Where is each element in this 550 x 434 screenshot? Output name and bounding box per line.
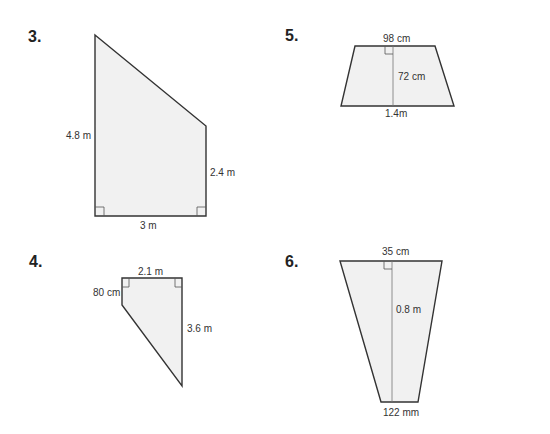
label-left-side: 4.8 m bbox=[66, 130, 91, 141]
label-right-side: 2.4 m bbox=[210, 167, 235, 178]
label-right-side: 3.6 m bbox=[187, 323, 212, 334]
problem-number-5: 5. bbox=[285, 27, 298, 45]
label-bottom-side: 122 mm bbox=[383, 407, 419, 418]
label-height: 72 cm bbox=[398, 71, 425, 82]
label-bottom-side: 1.4m bbox=[385, 108, 407, 119]
problem-number-4: 4. bbox=[29, 253, 42, 271]
label-height: 0.8 m bbox=[396, 304, 421, 315]
figures-canvas bbox=[0, 0, 550, 434]
label-bottom-side: 3 m bbox=[140, 220, 157, 231]
label-top-side: 2.1 m bbox=[138, 266, 163, 277]
problem-number-3: 3. bbox=[28, 28, 41, 46]
label-left-side: 80 cm bbox=[93, 287, 120, 298]
shape-6-trapezoid bbox=[340, 261, 442, 402]
problem-number-6: 6. bbox=[285, 253, 298, 271]
label-top-side: 98 cm bbox=[383, 33, 410, 44]
shape-4-trapezoid bbox=[122, 278, 182, 386]
label-top-side: 35 cm bbox=[382, 246, 409, 257]
shape-3-trapezoid bbox=[95, 35, 206, 216]
